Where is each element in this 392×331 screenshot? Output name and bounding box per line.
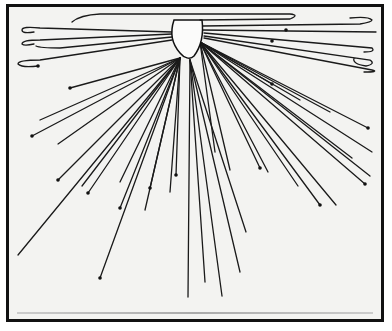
track-radiating-left	[58, 58, 180, 144]
track-end-dot	[270, 39, 274, 43]
track-radiating-down	[188, 60, 190, 297]
track-end-dot	[318, 203, 322, 207]
track-end-dot	[30, 134, 34, 138]
track-radiating-left	[32, 58, 180, 136]
track-right-curl	[202, 30, 376, 32]
track-end-dot	[363, 182, 367, 186]
track-radiating-left	[18, 58, 180, 255]
tracks-group	[18, 17, 376, 297]
track-end-dot	[86, 191, 90, 195]
track-left-hook	[22, 27, 172, 32]
track-end-dot	[118, 206, 122, 210]
track-end-dot	[36, 64, 40, 68]
track-end-dot	[258, 166, 262, 170]
track-end-dot	[68, 86, 72, 90]
track-radiating-left	[100, 58, 180, 278]
track-end-dot	[284, 28, 288, 32]
track-radiating-right	[200, 42, 336, 205]
central-body	[172, 20, 203, 58]
track-radiating-down	[190, 60, 246, 232]
track-radiating-left	[58, 58, 180, 180]
radiating-tracks-figure	[0, 0, 392, 331]
track-end-dot	[148, 186, 152, 190]
track-end-dot	[56, 178, 60, 182]
track-end-dot	[366, 126, 370, 130]
track-end-dot	[174, 173, 178, 177]
track-end-dot	[98, 276, 102, 280]
track-radiating-left	[70, 58, 180, 88]
